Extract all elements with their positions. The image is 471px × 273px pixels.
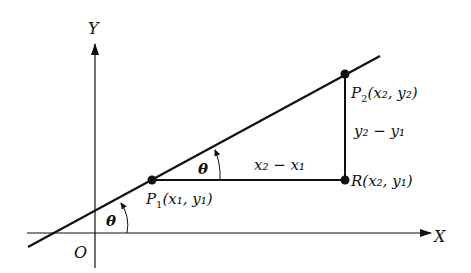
run-label: x₂ − x₁ (254, 156, 305, 174)
point-p2 (341, 70, 350, 79)
point-p1 (148, 176, 157, 185)
angle-arc-axis (121, 203, 128, 233)
x-axis-label: X (432, 227, 446, 246)
theta-p1-label: θ (198, 160, 208, 178)
origin-label: O (74, 243, 87, 262)
sloped-line (28, 56, 380, 247)
p1-label: P1(x₁, y₁) (145, 190, 213, 210)
y-axis-label: Y (88, 19, 100, 38)
diagram-canvas: Y X O θ θ P1(x₁, y₁) P2(x₂, y₂) R(x₂, y₁… (0, 0, 471, 273)
r-label: R(x₂, y₁) (350, 172, 413, 190)
rise-label: y₂ − y₁ (353, 122, 405, 140)
point-r (341, 176, 350, 185)
theta-axis-label: θ (106, 212, 116, 230)
p2-label: P2(x₂, y₂) (350, 84, 418, 104)
angle-arc-p1 (215, 150, 220, 179)
